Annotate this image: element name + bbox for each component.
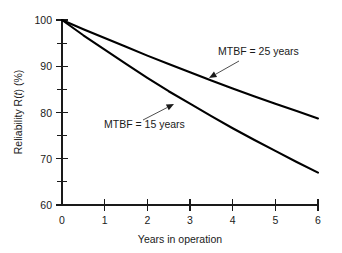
- x-tick-label-6: 6: [315, 214, 321, 226]
- annotation-label-mtbf-15: MTBF = 15 years: [104, 118, 185, 130]
- x-tick-label-5: 5: [272, 214, 278, 226]
- y-tick-label-80: 80: [40, 107, 52, 119]
- x-tick-label-1: 1: [102, 214, 108, 226]
- reliability-chart-figure: 100 90 80 70 60 0 1 2 3 4 5 6 Years in o…: [0, 0, 342, 253]
- y-tick-label-90: 90: [40, 60, 52, 72]
- curve-mtbf-15: [62, 20, 318, 173]
- x-axis-title: Years in operation: [138, 233, 222, 245]
- y-axis-title: Reliability R(t) (%): [12, 70, 24, 155]
- x-tick-label-0: 0: [59, 214, 65, 226]
- x-tick-label-2: 2: [144, 214, 150, 226]
- x-tick-label-4: 4: [230, 214, 236, 226]
- y-tick-label-100: 100: [34, 14, 52, 26]
- y-axis-tick-labels: 100 90 80 70 60: [34, 14, 52, 211]
- arrow-head-mtbf-25: [209, 72, 217, 78]
- annotation-label-mtbf-25: MTBF = 25 years: [218, 45, 299, 57]
- reliability-line-chart: 100 90 80 70 60 0 1 2 3 4 5 6 Years in o…: [0, 0, 342, 253]
- x-tick-label-3: 3: [187, 214, 193, 226]
- y-tick-label-60: 60: [40, 199, 52, 211]
- annotation-mtbf-25: MTBF = 25 years: [209, 45, 299, 78]
- annotation-mtbf-15: MTBF = 15 years: [104, 104, 185, 130]
- x-axis-tick-labels: 0 1 2 3 4 5 6: [59, 214, 321, 226]
- y-tick-label-70: 70: [40, 153, 52, 165]
- y-axis-title-suffix: ) (%): [12, 70, 24, 93]
- y-axis-title-prefix: Reliability R(: [12, 95, 24, 154]
- leader-line-mtbf-25: [216, 61, 239, 74]
